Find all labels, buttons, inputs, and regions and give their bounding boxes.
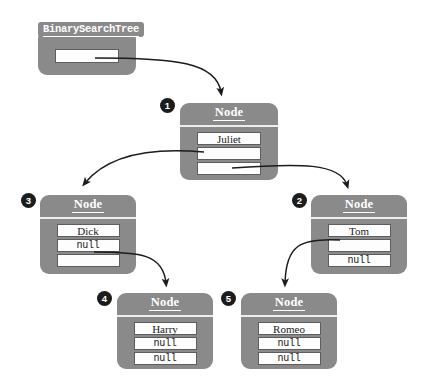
binarysearchtree-label: BinarySearchTree [38, 22, 144, 37]
node-fields: Dick null [40, 224, 136, 269]
badge-3: 3 [21, 193, 36, 208]
node-object-tom[interactable]: Node Tom null [311, 195, 407, 274]
binarysearchtree-label-text: BinarySearchTree [43, 23, 139, 37]
field-value[interactable]: Juliet [197, 132, 261, 145]
field-left-reference[interactable] [328, 239, 391, 252]
node-fields: Juliet [180, 132, 278, 177]
node-object-romeo[interactable]: Node Romeo null null [241, 293, 337, 369]
root-reference-field[interactable] [55, 49, 119, 63]
badge-1: 1 [160, 98, 175, 113]
header-divider [180, 125, 278, 127]
node-type-label: Node [117, 293, 213, 312]
badge-4: 4 [97, 291, 112, 306]
node-type-label: Node [40, 195, 136, 214]
field-right-reference[interactable]: null [328, 254, 391, 267]
node-type-label: Node [180, 103, 278, 122]
field-right-reference[interactable] [197, 162, 261, 175]
node-object-juliet[interactable]: Node Juliet [180, 103, 278, 180]
badge-5: 5 [221, 291, 236, 306]
field-left-reference[interactable]: null [57, 239, 120, 252]
field-value[interactable]: Harry [134, 322, 197, 335]
header-divider [311, 217, 407, 219]
field-left-reference[interactable]: null [134, 337, 197, 350]
node-type-label: Node [241, 293, 337, 312]
field-right-reference[interactable]: null [258, 352, 321, 365]
field-left-reference[interactable] [197, 147, 261, 160]
field-value[interactable]: Dick [57, 224, 120, 237]
field-value[interactable]: Tom [328, 224, 391, 237]
field-right-reference[interactable]: null [134, 352, 197, 365]
node-fields: Tom null [311, 224, 407, 269]
diagram-canvas: BinarySearchTree 1 Node Juliet 3 Node Di… [0, 0, 426, 384]
node-object-harry[interactable]: Node Harry null null [117, 293, 213, 369]
node-fields: Romeo null null [241, 322, 337, 367]
field-left-reference[interactable]: null [258, 337, 321, 350]
field-value[interactable]: Romeo [258, 322, 321, 335]
node-type-label: Node [311, 195, 407, 214]
header-divider [117, 315, 213, 317]
badge-2: 2 [292, 193, 307, 208]
field-right-reference[interactable] [57, 254, 120, 267]
node-fields: Harry null null [117, 322, 213, 367]
header-divider [40, 217, 136, 219]
header-divider [241, 315, 337, 317]
node-object-dick[interactable]: Node Dick null [40, 195, 136, 274]
